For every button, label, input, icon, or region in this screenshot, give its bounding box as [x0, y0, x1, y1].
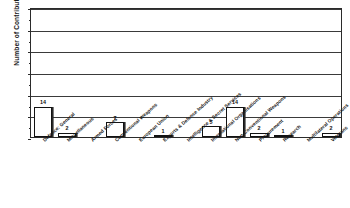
bar-slot: 14 — [31, 9, 55, 137]
bar-chart-figure: Number of Contributions 0102030405060 14… — [0, 0, 350, 208]
bar-slot: 1 — [271, 9, 295, 137]
x-axis-labels: Defence: GeneralMiscellaneousArmed Force… — [30, 139, 342, 208]
y-axis-title: Number of Contributions — [13, 0, 20, 86]
bar-value-label: 14 — [31, 99, 55, 105]
bar-slot — [295, 9, 319, 137]
